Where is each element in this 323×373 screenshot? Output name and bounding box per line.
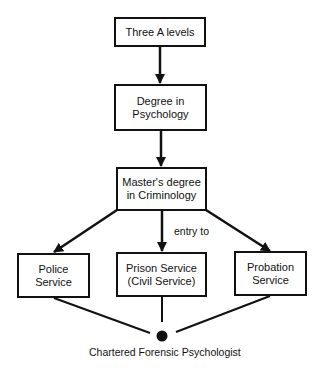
arrow-masters-to-probation bbox=[206, 210, 270, 251]
arrow-masters-to-police bbox=[54, 210, 117, 252]
edge-label-entry-to: entry to bbox=[174, 225, 209, 238]
node-police-service: Police Service bbox=[17, 253, 90, 298]
node-label: Prison Service (Civil Service) bbox=[126, 262, 197, 288]
node-label: Degree in Psychology bbox=[132, 95, 188, 121]
node-degree-psychology: Degree in Psychology bbox=[114, 84, 207, 131]
node-label: Three A levels bbox=[125, 26, 194, 39]
node-probation-service: Probation Service bbox=[234, 251, 307, 296]
line-probation-to-endpoint bbox=[176, 296, 270, 332]
node-prison-service: Prison Service (Civil Service) bbox=[116, 252, 207, 297]
endpoint-dot bbox=[157, 331, 168, 342]
node-label: Master's degree in Criminology bbox=[122, 176, 201, 202]
node-three-a-levels: Three A levels bbox=[114, 17, 206, 47]
node-masters-criminology: Master's degree in Criminology bbox=[116, 167, 207, 211]
endpoint-label: Chartered Forensic Psychologist bbox=[89, 346, 236, 359]
node-label: Probation Service bbox=[247, 261, 294, 287]
node-label: Police Service bbox=[35, 263, 72, 289]
line-police-to-endpoint bbox=[54, 298, 150, 333]
